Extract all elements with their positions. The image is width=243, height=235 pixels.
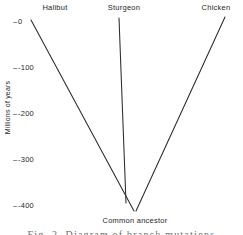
- common-ancestor-label: Common ancestor: [102, 216, 167, 225]
- figure-caption: Fig. 2. Diagram of branch mutations: [0, 229, 243, 235]
- branch-halibut: [31, 20, 134, 211]
- tree-branches: [0, 0, 243, 235]
- branch-chicken: [136, 17, 225, 211]
- branch-sturgeon: [119, 18, 126, 203]
- phylogenetic-tree-figure: Halibut Sturgeon Chicken –0 –-100 –-200 …: [0, 0, 243, 235]
